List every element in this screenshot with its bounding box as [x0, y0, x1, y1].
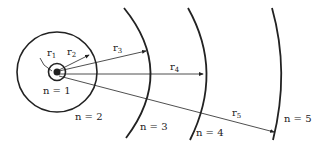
label-r5: r5	[232, 107, 241, 120]
label-r4: r4	[170, 61, 180, 74]
label-n2: n = 2	[75, 111, 103, 122]
label-n5: n = 5	[284, 113, 312, 124]
bohr-orbits-diagram: r1 r2 r3 r4 r5 n = 1 n = 2 n = 3 n = 4 n…	[0, 0, 324, 148]
label-n1: n = 1	[43, 85, 71, 96]
label-r2: r2	[67, 46, 76, 59]
diagram-canvas: r1 r2 r3 r4 r5 n = 1 n = 2 n = 3 n = 4 n…	[0, 0, 324, 148]
label-r1: r1	[47, 47, 56, 60]
orbit-n3	[124, 8, 151, 138]
label-r3: r3	[113, 42, 122, 55]
orbit-n5	[272, 8, 281, 140]
label-n4: n = 4	[196, 127, 224, 138]
label-n3: n = 3	[140, 121, 168, 132]
